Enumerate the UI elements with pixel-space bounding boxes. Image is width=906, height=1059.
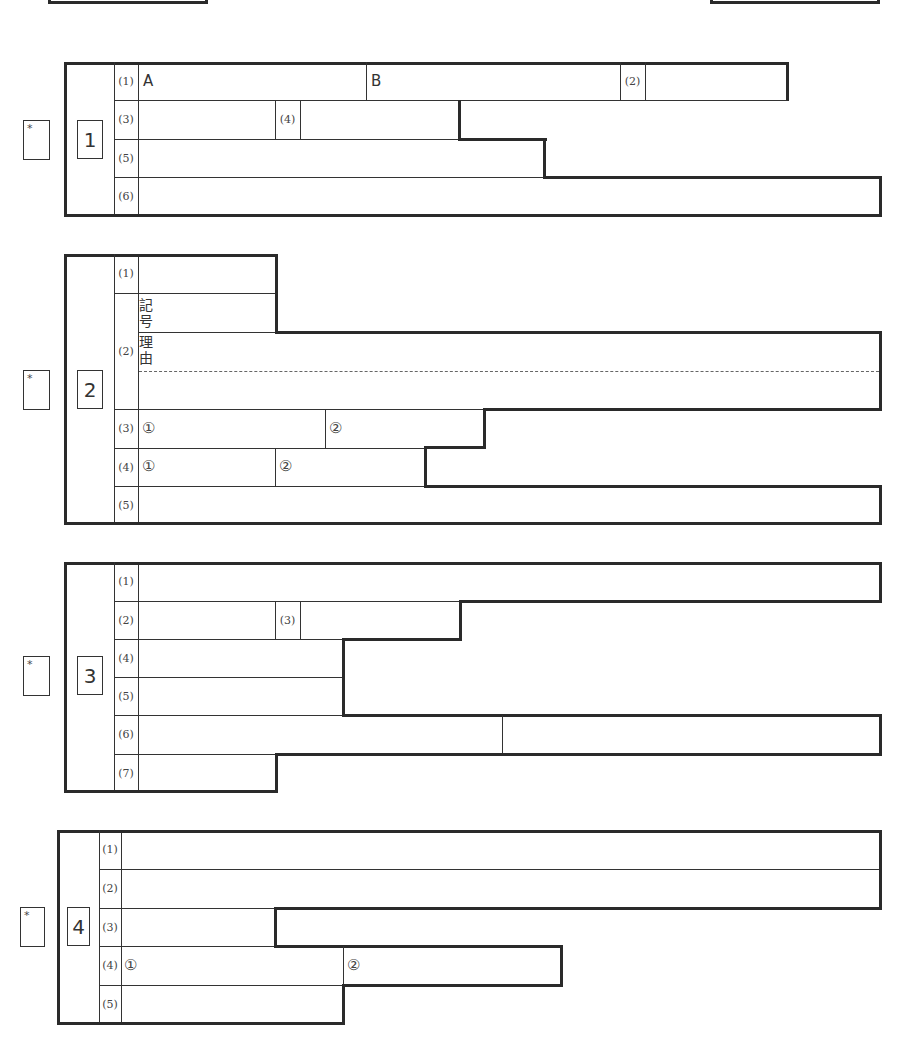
row-label: (1) bbox=[114, 562, 138, 601]
step-border bbox=[274, 907, 277, 948]
divider bbox=[114, 139, 138, 140]
row-label: (5) bbox=[99, 985, 121, 1024]
frame-right bbox=[879, 485, 882, 525]
score-box-2[interactable]: * bbox=[23, 370, 50, 410]
question-number-3: 3 bbox=[77, 656, 103, 695]
divider bbox=[114, 409, 138, 410]
frame-right bbox=[879, 331, 882, 411]
divider bbox=[114, 100, 138, 101]
row-label: (1) bbox=[99, 830, 121, 869]
score-marker: * bbox=[27, 658, 33, 671]
step-border bbox=[342, 984, 563, 987]
step-border bbox=[543, 138, 546, 179]
row-label: (2) bbox=[114, 293, 138, 409]
frame-bottom bbox=[64, 214, 882, 217]
step-border bbox=[459, 600, 882, 603]
top-right-partial-box bbox=[710, 0, 880, 4]
answer-field-4-2[interactable] bbox=[122, 870, 878, 907]
row-label: (3) bbox=[275, 601, 300, 639]
divider bbox=[275, 448, 276, 486]
divider bbox=[114, 293, 138, 294]
answer-field-3-7[interactable] bbox=[139, 755, 274, 790]
divider bbox=[114, 448, 138, 449]
answer-field-4-4-1[interactable] bbox=[140, 947, 342, 984]
answer-field-2-1[interactable] bbox=[139, 257, 274, 292]
divider bbox=[343, 946, 344, 985]
row-label: (4) bbox=[99, 946, 121, 985]
row-label: (3) bbox=[114, 100, 138, 139]
sub-item-2-label: ② bbox=[347, 956, 360, 974]
divider bbox=[138, 254, 139, 524]
answer-field-3-3[interactable] bbox=[301, 602, 458, 638]
answer-field-4-4-2[interactable] bbox=[363, 947, 559, 984]
divider bbox=[138, 715, 343, 716]
score-marker: * bbox=[24, 909, 30, 922]
sub-item-1-label: ① bbox=[142, 419, 155, 437]
answer-field-1-5[interactable] bbox=[139, 140, 543, 176]
row-label: (2) bbox=[99, 869, 121, 908]
step-border bbox=[342, 984, 345, 1025]
question-number-4: 4 bbox=[67, 907, 90, 946]
score-box-1[interactable]: * bbox=[23, 120, 50, 160]
divider bbox=[138, 486, 426, 487]
row-label: (1) bbox=[114, 254, 138, 293]
answer-field-1-2[interactable] bbox=[646, 65, 785, 99]
divider bbox=[99, 985, 121, 986]
row-label: (5) bbox=[114, 139, 138, 177]
question-number-1: 1 bbox=[77, 120, 103, 159]
answer-field-2-5[interactable] bbox=[139, 488, 878, 522]
answer-field-2-3-1[interactable] bbox=[158, 410, 324, 447]
answer-field-3-6-a[interactable] bbox=[139, 717, 501, 753]
score-box-3[interactable]: * bbox=[23, 656, 50, 696]
row-label: (2) bbox=[620, 62, 645, 100]
divider bbox=[99, 946, 121, 947]
row-label: (1) bbox=[114, 62, 138, 100]
row-label: (4) bbox=[275, 100, 300, 139]
answer-field-2-4-1[interactable] bbox=[158, 449, 274, 485]
frame-right bbox=[879, 830, 882, 910]
divider bbox=[114, 177, 138, 178]
reason-label: 理由 bbox=[139, 334, 155, 366]
answer-field-2-4-2[interactable] bbox=[295, 449, 423, 485]
divider bbox=[325, 409, 326, 448]
frame-bottom bbox=[64, 790, 278, 793]
frame-right bbox=[879, 714, 882, 756]
answer-field-3-5[interactable] bbox=[139, 678, 341, 714]
frame-right bbox=[879, 562, 882, 603]
answer-field-2-2-symbol[interactable] bbox=[155, 294, 274, 331]
answer-field-1-3[interactable] bbox=[139, 101, 275, 138]
answer-field-4-3[interactable] bbox=[122, 909, 273, 945]
divider bbox=[138, 332, 275, 333]
step-border bbox=[342, 638, 345, 717]
answer-field-2-2-reason[interactable] bbox=[155, 334, 878, 408]
frame-right bbox=[560, 945, 563, 987]
frame-bottom bbox=[64, 522, 882, 525]
answer-field-1-1-b[interactable] bbox=[367, 65, 619, 99]
step-border bbox=[275, 753, 882, 756]
answer-field-3-4[interactable] bbox=[139, 640, 341, 676]
divider bbox=[114, 677, 138, 678]
answer-field-3-1[interactable] bbox=[139, 565, 878, 600]
step-border bbox=[424, 446, 427, 488]
sub-item-1-label: ① bbox=[124, 956, 137, 974]
answer-field-1-4[interactable] bbox=[301, 101, 459, 138]
row-label: (3) bbox=[114, 409, 138, 448]
answer-field-2-3-2[interactable] bbox=[345, 410, 482, 447]
answer-field-3-2[interactable] bbox=[139, 602, 275, 638]
step-border bbox=[342, 638, 462, 641]
score-box-4[interactable]: * bbox=[20, 907, 45, 947]
row-label: (4) bbox=[114, 448, 138, 486]
answer-field-1-6[interactable] bbox=[139, 178, 878, 214]
answer-field-4-5[interactable] bbox=[122, 986, 341, 1022]
sub-item-1-label: ① bbox=[142, 457, 155, 475]
row-label: (7) bbox=[114, 754, 138, 792]
row-label: (5) bbox=[114, 486, 138, 524]
divider bbox=[114, 639, 138, 640]
answer-field-4-1[interactable] bbox=[122, 833, 878, 868]
answer-field-3-6-b[interactable] bbox=[503, 717, 878, 753]
frame-bottom bbox=[57, 1022, 345, 1025]
row-label: (6) bbox=[114, 715, 138, 754]
step-border bbox=[424, 446, 486, 449]
row-label: (3) bbox=[99, 908, 121, 946]
answer-field-1-1-a[interactable] bbox=[139, 65, 365, 99]
